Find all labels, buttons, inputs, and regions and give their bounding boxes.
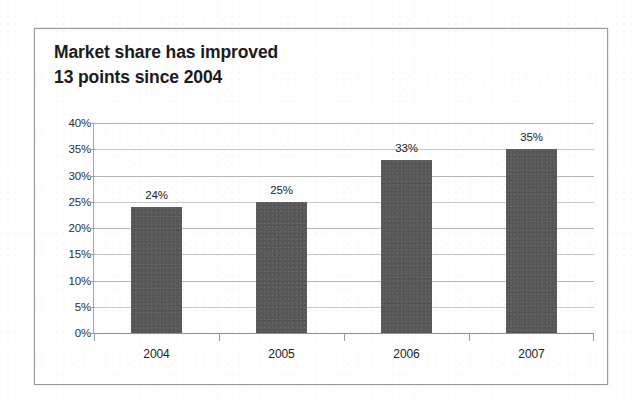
y-tick-label-15: 15%	[51, 248, 91, 260]
bar-2007[interactable]	[506, 149, 557, 333]
y-tick-label-5: 5%	[51, 301, 91, 313]
slide-frame: Market share has improved 13 points sinc…	[34, 28, 608, 385]
y-tick-label-25: 25%	[51, 196, 91, 208]
y-tickmark-15	[90, 254, 95, 255]
bar-value-label-2006: 33%	[381, 142, 432, 154]
x-tickmark-1	[219, 334, 220, 341]
y-tickmark-5	[90, 307, 95, 308]
y-tick-label-0: 0%	[51, 327, 91, 339]
y-tickmark-25	[90, 202, 95, 203]
x-tickmark-0	[94, 334, 95, 341]
bar-value-label-2004: 24%	[131, 189, 182, 201]
y-tickmark-10	[90, 281, 95, 282]
y-tick-label-10: 10%	[51, 275, 91, 287]
y-tick-label-40: 40%	[51, 117, 91, 129]
bar-chart: 40% 35% 30% 25% 20% 15% 10% 5% 0%	[35, 29, 609, 386]
y-tick-label-30: 30%	[51, 170, 91, 182]
bar-value-label-2007: 35%	[506, 131, 557, 143]
y-tick-label-35: 35%	[51, 143, 91, 155]
y-tickmark-35	[90, 149, 95, 150]
y-tickmark-30	[90, 176, 95, 177]
y-tickmark-20	[90, 228, 95, 229]
x-axis-label-2005: 2005	[219, 347, 344, 361]
plot-area: 24% 25% 33% 35%	[94, 123, 594, 333]
x-axis-label-2007: 2007	[469, 347, 594, 361]
x-tickmark-3	[469, 334, 470, 341]
bar-value-label-2005: 25%	[256, 184, 307, 196]
bar-2005[interactable]	[256, 202, 307, 333]
gridline-40	[94, 123, 594, 124]
bar-2006[interactable]	[381, 160, 432, 333]
x-axis-label-2004: 2004	[94, 347, 219, 361]
x-axis-label-2006: 2006	[344, 347, 469, 361]
y-tick-label-20: 20%	[51, 222, 91, 234]
x-tickmark-4	[593, 334, 594, 341]
y-axis-tick-labels: 40% 35% 30% 25% 20% 15% 10% 5% 0%	[51, 29, 91, 386]
y-tickmark-40	[90, 123, 95, 124]
x-tickmark-2	[344, 334, 345, 341]
bar-2004[interactable]	[131, 207, 182, 333]
